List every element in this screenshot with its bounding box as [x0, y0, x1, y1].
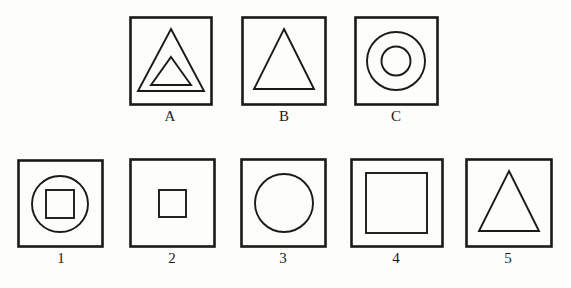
option-4-graphic: [350, 158, 445, 249]
panel-label-c: C: [376, 108, 416, 124]
panel-c-graphic: [354, 16, 439, 106]
option-2[interactable]: [129, 158, 217, 249]
option-label-1: 1: [41, 250, 81, 266]
panel-label-a: A: [150, 108, 190, 124]
option-label-5: 5: [488, 250, 528, 266]
panel-a[interactable]: [129, 16, 213, 106]
panel-c[interactable]: [354, 16, 439, 106]
figure-canvas: A B C 1 2: [0, 0, 571, 288]
panel-a-graphic: [129, 16, 213, 106]
option-label-3: 3: [263, 250, 303, 266]
option-5[interactable]: [465, 158, 554, 249]
option-4[interactable]: [350, 158, 445, 249]
panel-b-graphic: [241, 16, 327, 106]
panel-label-b: B: [264, 108, 304, 124]
option-1[interactable]: [17, 159, 105, 249]
option-5-graphic: [465, 158, 554, 249]
option-1-graphic: [17, 159, 105, 249]
option-label-2: 2: [152, 250, 192, 266]
option-3[interactable]: [240, 158, 328, 249]
option-2-graphic: [129, 158, 217, 249]
panel-b[interactable]: [241, 16, 327, 106]
option-label-4: 4: [376, 250, 416, 266]
option-3-graphic: [240, 158, 328, 249]
